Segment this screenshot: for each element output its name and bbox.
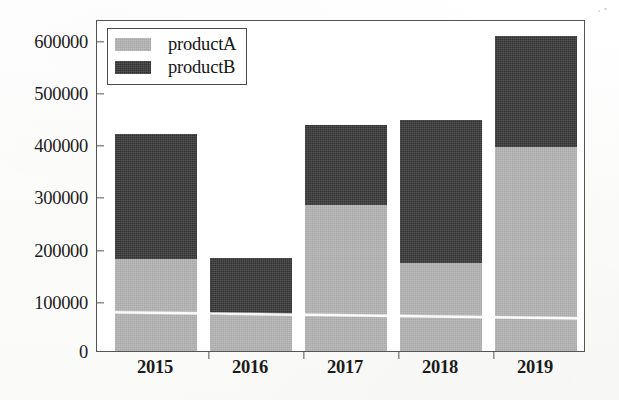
bar-segment-productA-2017[interactable] <box>305 205 387 351</box>
scan-speck <box>604 8 607 10</box>
y-tick-label-600000: 600000 <box>34 32 88 53</box>
bar-stack-2017[interactable] <box>305 125 387 351</box>
y-tick-mark-600000 <box>96 41 104 42</box>
bar-segment-productA-2019[interactable] <box>495 147 577 351</box>
x-tick-label-2015: 2015 <box>137 357 173 378</box>
legend-item-productA[interactable]: productA <box>115 33 236 56</box>
bar-segment-productA-2015[interactable] <box>115 259 197 351</box>
bar-stack-2015[interactable] <box>115 134 197 351</box>
y-tick-label-300000: 300000 <box>34 188 88 209</box>
x-tick-label-2017: 2017 <box>327 357 363 378</box>
x-tick-mark-2 <box>303 352 304 359</box>
y-tick-mark-500000 <box>96 93 104 94</box>
bar-segment-productB-2015[interactable] <box>115 134 197 259</box>
bar-stack-2018[interactable] <box>400 120 482 351</box>
bar-segment-productB-2019[interactable] <box>495 36 577 147</box>
bar-segment-productB-2016[interactable] <box>210 258 292 315</box>
y-tick-label-500000: 500000 <box>34 84 88 105</box>
x-tick-mark-4 <box>493 352 494 359</box>
bar-segment-productA-2018[interactable] <box>400 263 482 351</box>
y-tick-mark-200000 <box>96 250 104 251</box>
legend-label-productA: productA <box>168 34 236 55</box>
x-tick-mark-3 <box>398 352 399 359</box>
y-axis: 600000 500000 400000 300000 200000 10000… <box>0 0 88 400</box>
y-tick-mark-100000 <box>96 302 104 303</box>
bar-segment-productB-2017[interactable] <box>305 125 387 205</box>
y-tick-label-0: 0 <box>79 342 88 363</box>
legend-swatch-productA <box>115 38 151 51</box>
y-tick-label-400000: 400000 <box>34 136 88 157</box>
x-tick-label-2019: 2019 <box>517 357 553 378</box>
y-tick-mark-400000 <box>96 145 104 146</box>
legend-label-productB: productB <box>168 57 235 78</box>
x-tick-label-2016: 2016 <box>232 357 268 378</box>
y-tick-label-100000: 100000 <box>34 293 88 314</box>
chart-legend: productA productB <box>107 28 247 85</box>
plot-area: productA productB <box>96 20 585 352</box>
y-tick-label-200000: 200000 <box>34 241 88 262</box>
legend-item-productB[interactable]: productB <box>115 56 236 79</box>
x-tick-mark-1 <box>208 352 209 359</box>
legend-swatch-productB <box>115 61 151 74</box>
scan-speck <box>598 10 600 12</box>
bar-stack-2019[interactable] <box>495 36 577 351</box>
x-tick-label-2018: 2018 <box>422 357 458 378</box>
bar-segment-productA-2016[interactable] <box>210 315 292 351</box>
chart-figure: productA productB 600000 500000 400000 3… <box>0 0 619 400</box>
bar-stack-2016[interactable] <box>210 258 292 351</box>
bar-segment-productB-2018[interactable] <box>400 120 482 263</box>
y-tick-mark-300000 <box>96 197 104 198</box>
